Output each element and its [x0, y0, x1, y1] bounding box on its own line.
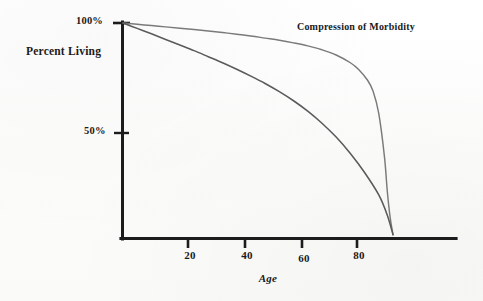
y-tick-label-50: 50%: [84, 125, 106, 136]
x-tick-label-80: 80: [353, 249, 364, 261]
survival-curve-figure: Percent Living 100% 50% Compression of M…: [0, 0, 483, 301]
y-axis-title: Percent Living: [26, 45, 101, 57]
y-tick-label-100: 100%: [76, 15, 103, 26]
annotation-compression-of-morbidity: Compression of Morbidity: [297, 21, 415, 32]
x-tick-label-60: 60: [298, 252, 309, 264]
curve-compression-of-morbidity: [123, 23, 393, 235]
x-tick-label-20: 20: [184, 249, 195, 261]
axes-group: [121, 22, 456, 239]
x-tick-label-40: 40: [241, 249, 252, 261]
x-axis-title: Age: [259, 272, 277, 284]
curve-baseline-survival: [123, 23, 393, 235]
